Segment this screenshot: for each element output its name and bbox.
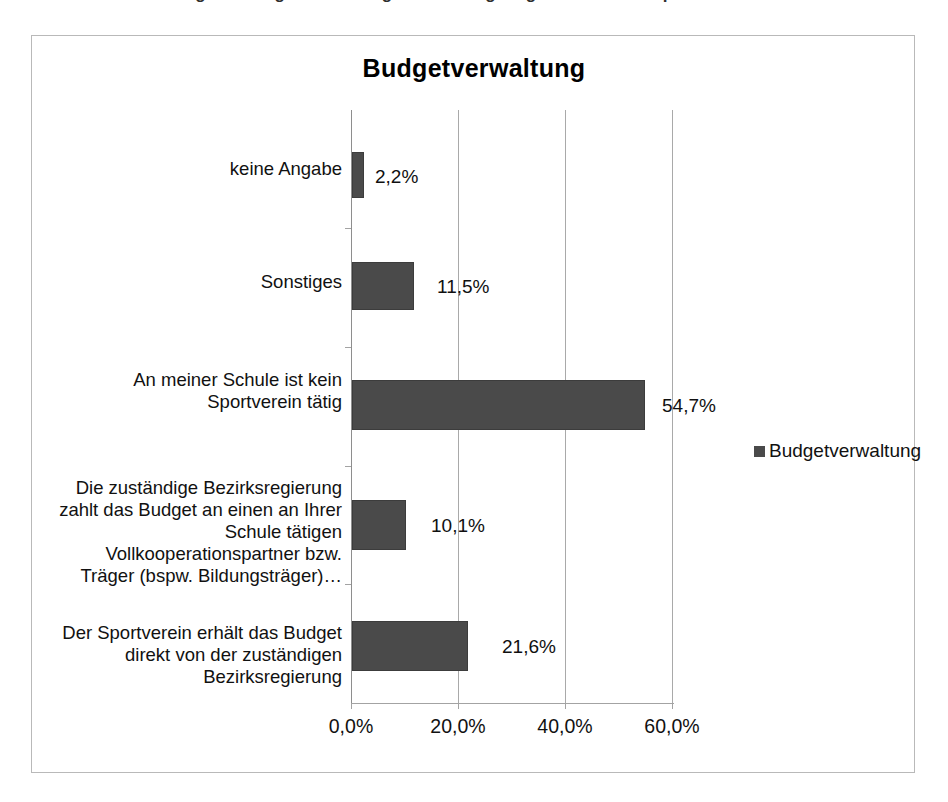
x-axis-label-20: 20,0% (430, 715, 485, 738)
x-axis-label-40: 40,0% (537, 715, 592, 738)
bar-bezirksregierung-traeger[interactable] (352, 500, 406, 550)
chart-frame: Budgetverwaltung keine Angabe 2,2% Sonst… (31, 35, 915, 773)
category-label-kein-sportverein: An meiner Schule ist kein Sportverein tä… (33, 369, 351, 413)
category-tick-3 (345, 466, 351, 467)
x-axis-label-0: 0,0% (329, 715, 373, 738)
bar-value-keine-angabe: 2,2% (375, 167, 418, 186)
category-label-sonstiges: Sonstiges (33, 271, 351, 293)
category-tick-1 (345, 228, 351, 229)
bar-kein-sportverein[interactable] (352, 380, 645, 430)
x-tick-60 (672, 703, 673, 709)
cropped-figure-caption: Abbildung 52: Budgetverwaltung bei Ganzt… (0, 0, 948, 14)
chart-legend: Budgetverwaltung (754, 440, 921, 462)
cropped-figure-caption-text: Abbildung 52: Budgetverwaltung bei Ganzt… (120, 0, 758, 4)
bar-value-bezirksregierung-traeger: 10,1% (431, 516, 485, 535)
bar-keine-angabe[interactable] (352, 152, 364, 198)
bar-value-sonstiges: 11,5% (437, 277, 489, 296)
bar-value-sportverein-direkt: 21,6% (502, 637, 556, 656)
category-tick-2 (345, 347, 351, 348)
legend-label-budgetverwaltung: Budgetverwaltung (769, 440, 921, 462)
plot-area: keine Angabe 2,2% Sonstiges 11,5% An mei… (351, 110, 674, 703)
category-axis-line (351, 703, 674, 704)
bar-value-kein-sportverein: 54,7% (662, 396, 716, 415)
category-label-bezirksregierung-traeger: Die zuständige Bezirksregierung zahlt da… (33, 477, 351, 587)
x-tick-40 (565, 703, 566, 709)
legend-swatch-icon (754, 446, 765, 457)
bar-sonstiges[interactable] (352, 262, 414, 310)
bar-sportverein-direkt[interactable] (352, 621, 468, 671)
category-label-sportverein-direkt: Der Sportverein erhält das Budget direkt… (33, 622, 351, 688)
category-label-keine-angabe: keine Angabe (33, 158, 351, 180)
x-tick-20 (458, 703, 459, 709)
x-axis-label-60: 60,0% (644, 715, 699, 738)
chart-title: Budgetverwaltung (32, 54, 916, 83)
x-tick-0 (351, 703, 352, 709)
